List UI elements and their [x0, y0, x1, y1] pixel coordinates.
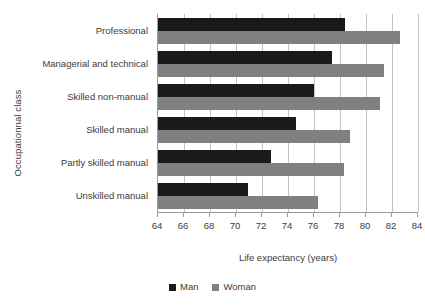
bar-man: [158, 84, 314, 97]
x-tick: [209, 212, 210, 217]
bar-man: [158, 183, 248, 196]
bar-woman: [158, 64, 384, 77]
bar-group: [158, 146, 418, 179]
x-tick: [339, 212, 340, 217]
x-axis-title: Life expectancy (years): [157, 252, 419, 263]
bar-group: [158, 47, 418, 80]
plot-area: [157, 14, 418, 212]
x-tick: [287, 212, 288, 217]
bar-man: [158, 150, 271, 163]
square-swatch-black: [169, 284, 176, 291]
legend-item-man: Man: [169, 282, 198, 292]
y-axis-category-labels: ProfessionalManagerial and technicalSkil…: [22, 14, 153, 212]
x-tick: [365, 212, 366, 217]
x-axis-tick-labels: 6466687072747678808284: [157, 219, 419, 233]
category-label: Managerial and technical: [42, 57, 148, 71]
bar-woman: [158, 163, 344, 176]
category-label: Partly skilled manual: [61, 156, 148, 170]
x-tick: [391, 212, 392, 217]
bar-chart: Occupationnal class ProfessionalManageri…: [0, 0, 425, 308]
bar-woman: [158, 31, 400, 44]
x-tick-label: 84: [402, 219, 425, 233]
chart-legend: ManWoman: [0, 282, 425, 292]
category-label: Skilled non-manual: [67, 90, 148, 104]
legend-item-woman: Woman: [212, 282, 256, 292]
x-tick: [157, 212, 158, 217]
bar-man: [158, 117, 296, 130]
category-label: Skilled manual: [86, 123, 148, 137]
bar-woman: [158, 97, 380, 110]
category-label: Professional: [96, 24, 148, 38]
bar-group: [158, 113, 418, 146]
x-tick: [235, 212, 236, 217]
x-tick: [417, 212, 418, 217]
bar-group: [158, 179, 418, 212]
bar-group: [158, 14, 418, 47]
bar-woman: [158, 130, 350, 143]
square-swatch-gray: [212, 284, 219, 291]
legend-label: Woman: [223, 282, 256, 292]
bar-man: [158, 51, 332, 64]
x-tick: [261, 212, 262, 217]
x-tick: [183, 212, 184, 217]
category-label: Unskilled manual: [76, 189, 148, 203]
bar-group: [158, 80, 418, 113]
x-tick: [313, 212, 314, 217]
bar-man: [158, 18, 345, 31]
gridline: [418, 14, 419, 212]
bar-woman: [158, 196, 318, 209]
x-axis-tick-marks: [157, 212, 419, 218]
legend-label: Man: [180, 282, 198, 292]
